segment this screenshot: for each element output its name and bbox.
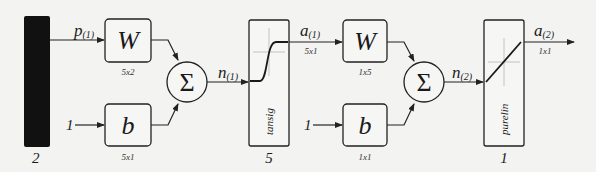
layer1-weight-dims: 5x2: [122, 67, 135, 77]
layer2-output-dims: 1x1: [539, 46, 552, 56]
layer2-bias-symbol: b: [359, 111, 372, 140]
layer2-weight-to-sum-wire: [387, 42, 414, 61]
layer1-neuron-count: 5: [265, 150, 273, 166]
layer2-sum-symbol: Σ: [416, 68, 431, 97]
layer1-weight-symbol: W: [117, 26, 141, 55]
layer1-bias-to-sum-wire: [151, 104, 178, 125]
layer2-weight-symbol: W: [354, 27, 378, 56]
layer1-sum-symbol: Σ: [179, 68, 194, 97]
layer2-bias-to-sum-wire: [387, 104, 414, 125]
layer1-net-label: n(1): [218, 63, 239, 83]
layer2-net-label: n(2): [452, 63, 473, 83]
input-vector-bar: [24, 16, 50, 147]
layer2-neuron-count: 1: [500, 150, 508, 166]
layer2-bias-dims: 1x1: [359, 152, 372, 162]
layer2-output-label: a(2): [534, 21, 555, 41]
layer1-output-label: a(1): [300, 21, 321, 41]
layer2-bias-input: 1: [304, 117, 312, 133]
layer2-transfer-name: purelin: [498, 103, 510, 136]
layer2-weight-dims: 1x5: [359, 67, 372, 77]
diagram-canvas: 2 p(1) W 5x2 1 b 5x1 Σ n(1) tansig 5 a(1…: [0, 0, 596, 172]
layer1-bias-input: 1: [66, 117, 74, 133]
layer1-output-dims: 5x1: [305, 46, 318, 56]
layer1-bias-dims: 5x1: [122, 152, 135, 162]
layer1-weight-to-sum-wire: [151, 40, 178, 60]
layer1-bias-symbol: b: [122, 111, 135, 140]
neural-network-diagram: 2 p(1) W 5x2 1 b 5x1 Σ n(1) tansig 5 a(1…: [0, 0, 596, 172]
input-label: p(1): [73, 21, 95, 41]
input-size-label: 2: [32, 150, 40, 166]
layer1-transfer-name: tansig: [263, 108, 275, 135]
